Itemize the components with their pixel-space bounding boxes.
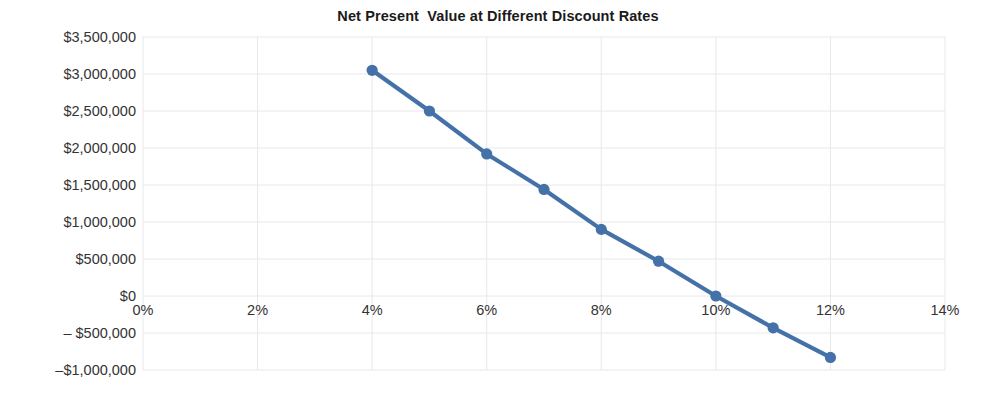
- x-axis: 0%2%4%6%8%10%12%14%: [143, 296, 945, 324]
- y-axis-tick-label: $1,000,000: [8, 214, 143, 230]
- chart-title: Net Present Value at Different Discount …: [0, 8, 996, 24]
- data-point-marker: [825, 352, 836, 363]
- y-axis-tick-label: $1,500,000: [8, 177, 143, 193]
- x-axis-tick-label: 12%: [816, 302, 845, 318]
- x-axis-tick-label: 0%: [133, 302, 154, 318]
- data-point-marker: [653, 256, 664, 267]
- x-axis-tick-label: 10%: [701, 302, 730, 318]
- y-axis-tick-label: $500,000: [8, 251, 143, 267]
- x-axis-tick-label: 2%: [247, 302, 268, 318]
- x-axis-tick-label: 14%: [930, 302, 959, 318]
- y-axis-tick-label: $2,500,000: [8, 103, 143, 119]
- y-axis-tick-label: $3,500,000: [8, 29, 143, 45]
- y-axis-tick-label: $3,000,000: [8, 66, 143, 82]
- data-point-marker: [367, 65, 378, 76]
- y-axis-tick-label: – $500,000: [8, 325, 143, 341]
- y-axis-tick-label: $0: [8, 288, 143, 304]
- data-point-marker: [481, 148, 492, 159]
- data-point-marker: [424, 105, 435, 116]
- x-axis-tick-label: 6%: [476, 302, 497, 318]
- y-axis-tick-label: $2,000,000: [8, 140, 143, 156]
- y-axis: $3,500,000$3,000,000$2,500,000$2,000,000…: [0, 37, 143, 370]
- x-axis-tick-label: 4%: [362, 302, 383, 318]
- y-axis-tick-label: –$1,000,000: [8, 362, 143, 378]
- data-point-marker: [596, 224, 607, 235]
- npv-line-chart: Net Present Value at Different Discount …: [0, 0, 996, 398]
- x-axis-tick-label: 8%: [591, 302, 612, 318]
- data-point-marker: [538, 184, 549, 195]
